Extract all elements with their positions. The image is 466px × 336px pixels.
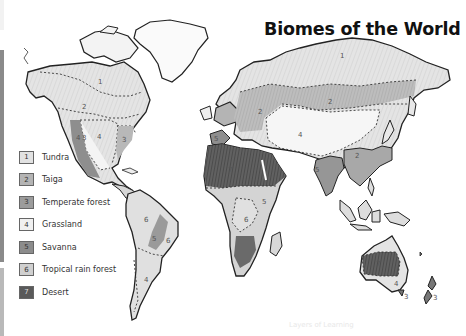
legend-item-grassland: 4 Grassland [19,215,116,236]
legend-item-tundra: 1 Tundra [19,147,116,168]
map-label: 3 [433,294,437,302]
map-label: 4 [97,133,102,141]
legend-item-desert: 7 Desert [19,282,116,303]
greenland [134,20,208,82]
legend-item-savanna: 5 Savanna [19,237,116,258]
map-label: 2 [355,152,359,160]
map-label: 5 [214,135,218,143]
legend-label: Grassland [42,220,82,229]
map-label: 2 [258,108,262,116]
legend-swatch: 2 [19,173,34,186]
map-label: 1 [98,78,102,86]
map-label: 4 [76,134,81,142]
legend-item-temperate-forest: 3 Temperate forest [19,192,116,213]
legend-label: Tropical rain forest [42,265,116,274]
legend-label: Temperate forest [42,198,110,207]
map-label: 5 [152,235,156,243]
legend-label: Savanna [42,243,77,252]
legend-item-taiga: 2 Taiga [19,170,116,191]
page-title: Biomes of the World [264,19,461,39]
legend-swatch: 1 [19,151,34,164]
map-label: 3 [404,293,408,301]
map-label: 5 [315,166,319,174]
map-label: 4 [394,280,399,288]
map-label: 7 [228,166,232,174]
map-label: 7 [376,260,380,268]
south-america [126,190,178,320]
legend-swatch: 5 [19,241,34,254]
map-label: 6 [166,237,171,245]
map-label: 4 [298,131,303,139]
map-label: 1 [340,52,344,60]
legend-swatch: 7 [19,286,34,299]
map-label: 5 [262,198,266,206]
legend-swatch: 6 [19,263,34,276]
legend-label: Tundra [42,153,69,162]
legend-label: Taiga [42,175,63,184]
legend-label: Desert [42,288,69,297]
map-label: 6 [144,216,149,224]
arctic-islands [80,30,138,62]
map-label: 4 [144,276,149,284]
map-label: 3 [122,136,126,144]
map-label: 2 [328,98,332,106]
map-label: 6 [244,216,249,224]
legend-item-tropical-rain-forest: 6 Tropical rain forest [19,260,116,281]
legend: 1 Tundra 2 Taiga 3 Temperate forest 4 Gr… [19,147,116,305]
watermark: Layers of Learning [289,321,354,329]
legend-swatch: 3 [19,196,34,209]
map-label: 2 [82,103,86,111]
legend-swatch: 4 [19,218,34,231]
map-label: 3 [82,134,86,142]
